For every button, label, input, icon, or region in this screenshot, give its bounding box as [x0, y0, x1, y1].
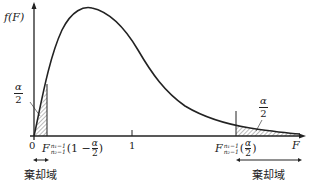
- left-region-arrow-left-icon: [33, 158, 37, 162]
- f-distribution-diagram: f(F) F 0 1 α 2 α 2 F n₁−1 n₂−1 (1 − α 2 …: [0, 0, 310, 184]
- left-critical-value-label: F n₁−1 n₂−1 (1 − α 2 ): [42, 139, 103, 158]
- right-critical-value-label: F n₁−1 n₂−1 ( α 2 ): [215, 139, 256, 158]
- right-rejection-region-label: 棄却域: [252, 166, 285, 182]
- right-region-arrow-left-icon: [236, 158, 240, 162]
- left-area-fraction: α 2: [14, 82, 23, 105]
- y-axis-label: f(F): [4, 12, 24, 23]
- left-rejection-region-label: 棄却域: [24, 166, 57, 182]
- origin-label: 0: [29, 141, 35, 151]
- right-area-fraction: α 2: [259, 96, 268, 119]
- x-axis-label: F: [292, 140, 300, 151]
- x-axis-arrow-icon: [299, 134, 306, 139]
- y-axis-arrow-icon: [32, 2, 37, 9]
- left-area-pointer: [30, 102, 40, 116]
- left-region-arrow-right-icon: [45, 158, 49, 162]
- tick-one-label: 1: [129, 141, 135, 151]
- right-region-arrow-right-icon: [298, 158, 302, 162]
